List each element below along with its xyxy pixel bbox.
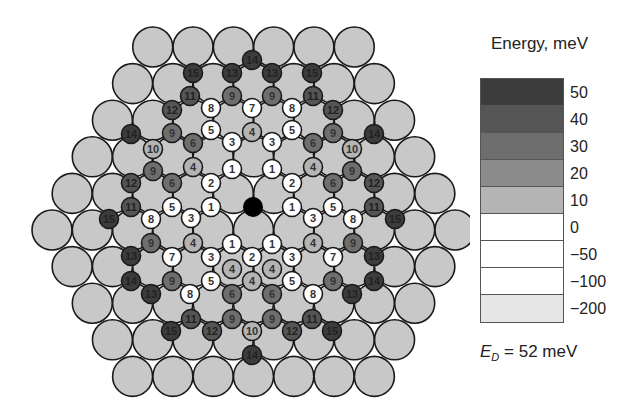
adatom-site: 13: [142, 285, 161, 304]
site-label: 14: [246, 54, 259, 66]
site-label: 4: [229, 263, 236, 275]
adatom-site: 4: [263, 260, 282, 279]
substrate-atom: [294, 27, 334, 67]
adatom-site: 13: [223, 64, 242, 83]
adatom-site: 5: [163, 198, 182, 217]
adatom-site: 8: [344, 210, 363, 229]
site-label: 3: [310, 212, 316, 224]
site-label: 3: [188, 212, 194, 224]
site-label: 7: [330, 251, 336, 263]
adatom-site: 3: [202, 248, 221, 267]
adatom-site: 4: [304, 158, 323, 177]
adatom-site: 12: [163, 101, 182, 120]
adatom-site: 4: [243, 272, 262, 291]
site-label: 3: [289, 251, 295, 263]
site-label: 5: [169, 201, 175, 213]
site-label: 4: [310, 161, 317, 173]
adatom-energy-map: 1415131315119911128781214954591410633610…: [0, 0, 470, 415]
site-label: 15: [103, 213, 115, 225]
adatom-site: 15: [303, 64, 322, 83]
adatom-site: 11: [122, 198, 141, 217]
site-label: 9: [148, 237, 154, 249]
legend-swatch: [481, 160, 563, 187]
site-label: 5: [289, 124, 295, 136]
site-label: 4: [310, 237, 317, 249]
site-label: 13: [145, 288, 157, 300]
adatom-site: 4: [184, 158, 203, 177]
site-label: 8: [350, 213, 356, 225]
substrate-atom: [52, 247, 92, 287]
site-label: 4: [269, 263, 276, 275]
adatom-site: 3: [223, 133, 242, 152]
site-label: 15: [187, 67, 199, 79]
adatom-site: 9: [163, 124, 182, 143]
substrate-atom: [274, 356, 314, 396]
adatom-site: 8: [283, 99, 302, 118]
adatom-site: 14: [365, 272, 384, 291]
site-label: 11: [185, 313, 197, 325]
site-label: 15: [306, 67, 318, 79]
adatom-site: 9: [324, 272, 343, 291]
site-label: 6: [330, 177, 336, 189]
site-label: 9: [229, 90, 235, 102]
legend-label: 20: [570, 165, 588, 183]
site-label: 8: [289, 102, 295, 114]
site-label: 9: [330, 275, 336, 287]
adatom-site: 12: [365, 174, 384, 193]
adatom-site: 14: [122, 125, 141, 144]
site-label: 6: [310, 137, 316, 149]
adatom-site: 13: [365, 247, 384, 266]
adatom-site: 15: [100, 210, 119, 229]
site-label: 5: [330, 201, 336, 213]
adatom-site: 8: [304, 285, 323, 304]
adatom-site: 9: [163, 272, 182, 291]
adatom-site: 15: [162, 322, 181, 341]
site-label: 13: [368, 250, 380, 262]
adatom-site: 2: [243, 248, 262, 267]
adatom-site: 1: [202, 198, 221, 217]
site-label: 6: [269, 288, 275, 300]
substrate-atom: [334, 27, 374, 67]
adatom-site: 10: [243, 322, 262, 341]
site-label: 12: [125, 177, 137, 189]
substrate-atom: [395, 137, 435, 177]
site-label: 5: [208, 275, 214, 287]
adatom-site: 8: [181, 285, 200, 304]
site-label: 3: [208, 251, 214, 263]
site-label: 4: [249, 275, 256, 287]
adatom-site: 1: [283, 198, 302, 217]
adatom-site: 5: [324, 198, 343, 217]
site-label: 7: [249, 102, 255, 114]
substrate-atom: [72, 137, 112, 177]
adatom-site: 9: [324, 124, 343, 143]
adatom-site: 4: [243, 123, 262, 142]
adatom-site: 9: [223, 310, 242, 329]
substrate-atom: [415, 173, 455, 213]
site-label: 6: [229, 288, 235, 300]
adatom-site: 5: [202, 121, 221, 140]
adatom-site: 15: [184, 64, 203, 83]
legend-swatch: [481, 268, 563, 295]
site-label: 2: [289, 177, 295, 189]
substrate-atom: [153, 356, 193, 396]
substrate-atom: [92, 320, 132, 360]
site-label: 10: [147, 143, 159, 155]
adatom-site: 3: [263, 133, 282, 152]
adatom-site: 3: [304, 209, 323, 228]
adatom-site: 11: [303, 310, 322, 329]
adatom-site: 13: [343, 285, 362, 304]
substrate-atom: [133, 27, 173, 67]
adatom-site: 13: [263, 64, 282, 83]
adatom-site: 11: [181, 87, 200, 106]
adatom-site: 6: [184, 134, 203, 153]
site-label: 1: [269, 163, 275, 175]
site-label: 4: [190, 161, 197, 173]
substrate-atom: [375, 320, 415, 360]
site-label: 9: [350, 237, 356, 249]
adatom-site: 14: [243, 346, 262, 365]
adatom-site: 9: [144, 162, 163, 181]
site-label: 8: [187, 288, 193, 300]
site-label: 15: [389, 213, 401, 225]
adatom-site: 6: [223, 285, 242, 304]
substrate-atom: [113, 356, 153, 396]
